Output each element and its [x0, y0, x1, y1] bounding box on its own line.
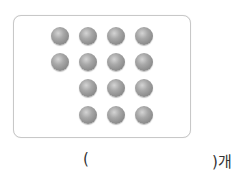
marble-dot — [79, 79, 97, 97]
marble-dot — [107, 27, 125, 45]
marble-dot — [135, 106, 153, 124]
marble-dot — [51, 27, 69, 45]
marble-dot — [135, 27, 153, 45]
marble-dot — [107, 106, 125, 124]
marble-dot — [51, 53, 69, 71]
marble-dot — [79, 27, 97, 45]
marble-dot — [79, 53, 97, 71]
marble-dot — [107, 79, 125, 97]
marble-dot — [135, 53, 153, 71]
marble-dot — [135, 79, 153, 97]
marble-dot — [79, 106, 97, 124]
open-paren: ( — [83, 150, 89, 168]
marble-frame — [13, 15, 191, 138]
close-paren-unit: )개 — [212, 150, 232, 171]
answer-line: ( )개 — [0, 150, 240, 174]
marble-dot — [107, 53, 125, 71]
